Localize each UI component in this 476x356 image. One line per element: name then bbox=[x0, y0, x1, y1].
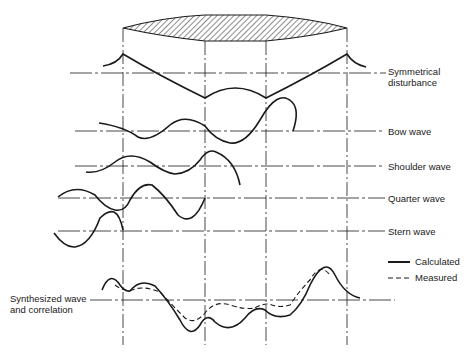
label-quarter-wave: Quarter wave bbox=[388, 193, 445, 204]
label-bow-wave: Bow wave bbox=[388, 126, 431, 137]
legend-calculated-label: Calculated bbox=[415, 256, 460, 267]
synthesized-measured-curve bbox=[115, 270, 330, 321]
label-line: and correlation bbox=[10, 304, 87, 315]
hull-section bbox=[123, 15, 347, 41]
label-line: Symmetrical bbox=[388, 66, 440, 77]
shoulder-wave-curve bbox=[86, 151, 240, 185]
quarter-wave-curve bbox=[58, 185, 205, 219]
bow-wave-curve bbox=[99, 98, 296, 143]
label-symmetrical: Symmetrical disturbance bbox=[388, 66, 440, 88]
baselines bbox=[58, 73, 395, 300]
synthesized-calculated-curve bbox=[102, 267, 360, 331]
label-line: disturbance bbox=[388, 77, 440, 88]
label-stern-wave: Stern wave bbox=[388, 226, 436, 237]
station-lines bbox=[123, 28, 347, 345]
label-line: Synthesized wave bbox=[10, 293, 87, 304]
symmetrical-disturbance-curve bbox=[103, 54, 366, 98]
stern-wave-curve bbox=[54, 212, 123, 247]
label-synthesized: Synthesized wave and correlation bbox=[10, 293, 87, 315]
legend-measured-label: Measured bbox=[415, 272, 457, 283]
label-shoulder-wave: Shoulder wave bbox=[388, 161, 451, 172]
